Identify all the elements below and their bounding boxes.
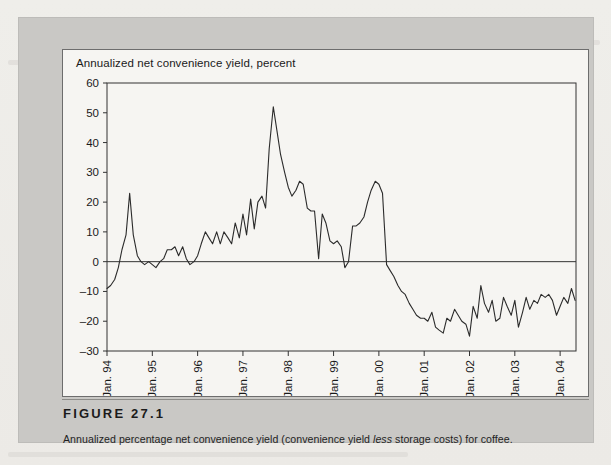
page-bleed-text (8, 452, 408, 457)
y-axis-tick-label: 50 (86, 107, 99, 119)
caption-text-after: storage costs) for coffee. (392, 433, 513, 445)
x-axis-tick-label: Jan. 04 (554, 359, 566, 396)
y-axis-tick-label: –30 (80, 345, 99, 357)
caption-text-before: Annualized percentage net convenience yi… (63, 433, 373, 445)
y-axis-tick-label: 10 (86, 226, 99, 238)
x-axis-tick-label: Jan. 94 (101, 359, 113, 396)
x-axis-tick-label: Jan. 99 (328, 360, 340, 396)
x-axis-tick-label: Jan. 03 (509, 360, 521, 396)
y-axis-tick-label: 20 (86, 196, 99, 208)
y-axis-tick-label: 0 (93, 256, 99, 268)
figure-page: Annualized net convenience yield, percen… (0, 0, 611, 465)
y-axis-tick-label: 60 (86, 77, 99, 89)
figure-caption: Annualized percentage net convenience yi… (63, 433, 583, 445)
x-axis-tick-label: Jan. 95 (146, 360, 158, 396)
y-axis-tick-label: 30 (86, 166, 99, 178)
x-axis-tick-label: Jan. 01 (418, 360, 430, 396)
x-axis-tick-label: Jan. 02 (464, 360, 476, 396)
x-axis-tick-label: Jan. 00 (373, 360, 385, 396)
caption-emphasis: less (373, 433, 392, 445)
convenience-yield-line-chart: 6050403020100–10–20–30Jan. 94Jan. 95Jan.… (63, 50, 588, 396)
chart-panel: Annualized net convenience yield, percen… (62, 49, 589, 397)
x-axis-tick-label: Jan. 96 (192, 360, 204, 396)
y-axis-tick-label: –10 (80, 285, 99, 297)
caption-divider (62, 399, 589, 400)
figure-number-label: FIGURE 27.1 (63, 406, 165, 421)
y-axis-tick-label: 40 (86, 137, 99, 149)
x-axis-tick-label: Jan. 98 (282, 360, 294, 396)
figure-container: Annualized net convenience yield, percen… (19, 18, 593, 442)
plot-frame (107, 83, 576, 351)
data-series-line (107, 107, 575, 336)
x-axis-tick-label: Jan. 97 (237, 360, 249, 396)
y-axis-tick-label: –20 (80, 315, 99, 327)
